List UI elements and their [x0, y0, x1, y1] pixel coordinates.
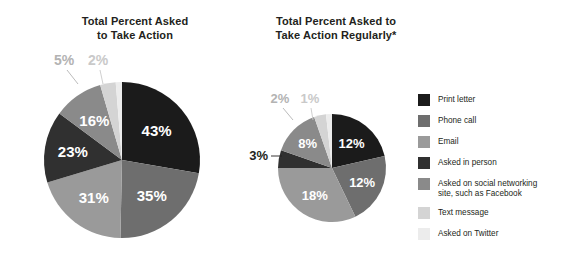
legend-item-label: Text message [438, 207, 489, 218]
pie-slice-value-label: 31% [79, 189, 109, 206]
chart-canvas: Total Percent Asked to Take Action Total… [0, 0, 569, 271]
pie-slice-value-label: 35% [137, 187, 167, 204]
callout-leader-line [283, 108, 293, 120]
legend-color-swatch [418, 136, 430, 148]
pie-chart-2-svg: 12%12%18%8%3%2%1% [248, 86, 408, 236]
callout-leader-line [100, 70, 103, 84]
legend-color-swatch [418, 94, 430, 106]
chart-2-title: Total Percent Asked to Take Action Regul… [238, 14, 434, 42]
legend-item-label: Phone call [438, 115, 476, 126]
legend: Print letterPhone callEmailAsked in pers… [418, 94, 568, 249]
legend-color-swatch [418, 115, 430, 127]
chart-2-title-line-1: Total Percent Asked to [238, 14, 434, 28]
pie-slice-value-label: 43% [142, 122, 172, 139]
pie-slice-value-label: 16% [79, 112, 109, 129]
pie-slice-value-label: 12% [349, 175, 375, 190]
chart-1-title-line-2: to Take Action [40, 28, 230, 42]
pie-slice-callout-label: 3% [249, 148, 268, 163]
legend-item-label: Print letter [438, 94, 475, 105]
pie-slice-value-label: 18% [302, 188, 328, 203]
chart-1-title-line-1: Total Percent Asked [40, 14, 230, 28]
legend-color-swatch [418, 178, 430, 190]
legend-color-swatch [418, 157, 430, 169]
legend-item[interactable]: Email [418, 136, 568, 148]
pie-slice-value-label: 23% [58, 143, 88, 160]
pie-slice-callout-label: 2% [88, 52, 109, 68]
pie-slice-callout-label: 1% [301, 91, 320, 106]
legend-item[interactable]: Text message [418, 207, 568, 219]
legend-item[interactable]: Asked on social networking site, such as… [418, 178, 568, 199]
pie-slice-value-label: 12% [339, 136, 365, 151]
legend-item-label: Asked on Twitter [438, 228, 498, 239]
legend-item[interactable]: Asked on Twitter [418, 228, 568, 240]
pie-slice-value-label: 8% [298, 136, 317, 151]
legend-item-label: Asked on social networking site, such as… [438, 178, 537, 199]
legend-item[interactable]: Asked in person [418, 157, 568, 169]
chart-1-title: Total Percent Asked to Take Action [40, 14, 230, 42]
legend-item[interactable]: Print letter [418, 94, 568, 106]
pie-slice-callout-label: 2% [271, 91, 290, 106]
legend-color-swatch [418, 207, 430, 219]
legend-item-label: Asked in person [438, 157, 497, 168]
legend-color-swatch [418, 228, 430, 240]
chart-2-title-line-2: Take Action Regularly* [238, 28, 434, 42]
pie-chart-total-percent-asked: 43%35%31%23%16%5%2% [30, 46, 220, 236]
pie-chart-1-svg: 43%35%31%23%16%5%2% [30, 46, 220, 236]
pie-chart-total-percent-asked-regularly: 12%12%18%8%3%2%1% [248, 86, 408, 236]
legend-item[interactable]: Phone call [418, 115, 568, 127]
legend-item-label: Email [438, 136, 458, 147]
callout-leader-line [67, 70, 78, 84]
pie-slice-callout-label: 5% [54, 52, 75, 68]
